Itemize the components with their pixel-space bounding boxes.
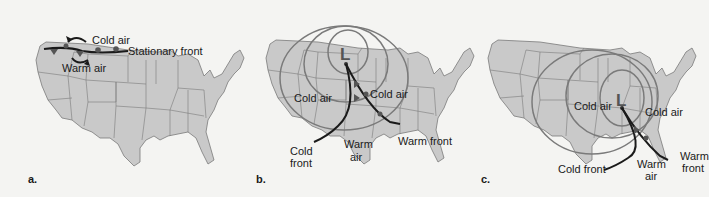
warm-front-semicircle: [95, 47, 101, 53]
us-map: [36, 42, 244, 166]
warm-front-semicircle: [64, 44, 69, 49]
warm-front-label-line1: Warm: [680, 150, 709, 162]
panel-a-label: a.: [28, 173, 37, 185]
warm-front-semicircle: [364, 92, 369, 97]
panel-c-label: c.: [481, 173, 490, 185]
warm-front-label: Warm front: [398, 135, 452, 147]
figure: Cold air Stationary front Warm air a. L …: [0, 0, 709, 197]
warm-front-semicircle: [378, 112, 383, 117]
low-pressure-symbol: L: [340, 45, 350, 64]
warm-front-semicircle: [644, 136, 649, 141]
cold-air-west-label: Cold air: [574, 100, 612, 112]
warm-front-semicircle: [113, 46, 119, 52]
panel-c: L Cold air Cold air Warm air Cold front …: [488, 40, 709, 182]
panel-b-label: b.: [256, 173, 266, 185]
cold-air-east-label: Cold air: [370, 88, 408, 100]
warm-air-label-line1: Warm: [637, 158, 666, 170]
panel-b: L Cold air Cold air Warm air Cold front …: [266, 26, 474, 169]
warm-front-label-line2: front: [682, 162, 704, 174]
cold-front-label-line2: front: [290, 157, 312, 169]
cold-air-east-label: Cold air: [645, 106, 683, 118]
warm-air-label-line1: Warm: [344, 138, 373, 150]
stationary-front-label: Stationary front: [128, 45, 203, 57]
cold-front-label-line1: Cold: [290, 145, 313, 157]
cold-front-label: Cold front: [558, 163, 606, 175]
arrowhead-icon: [66, 36, 72, 42]
cold-air-west-label: Cold air: [294, 92, 332, 104]
cold-air-label: Cold air: [92, 34, 130, 46]
warm-air-label-line2: air: [645, 170, 658, 182]
warm-air-label: Warm air: [62, 62, 107, 74]
warm-air-label-line2: air: [350, 151, 363, 163]
panel-a: Cold air Stationary front Warm air: [36, 34, 244, 166]
